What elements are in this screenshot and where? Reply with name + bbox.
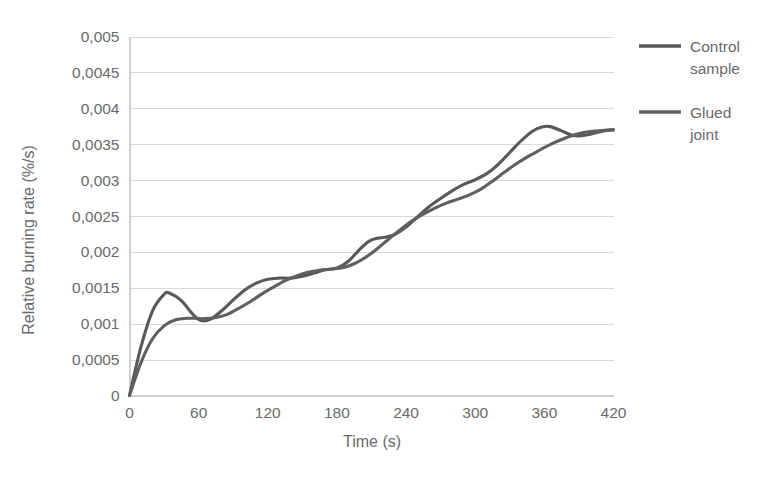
y-tick-label-8: 0,004 xyxy=(81,100,120,117)
x-axis-title: Time (s) xyxy=(343,433,401,450)
y-tick-label-0: 0 xyxy=(111,387,120,404)
y-tick-label-9: 0,0045 xyxy=(72,64,119,81)
x-tick-label-2: 120 xyxy=(255,404,281,421)
x-tick-label-1: 60 xyxy=(190,404,208,421)
y-tick-label-7: 0,0035 xyxy=(72,136,119,153)
y-tick-label-3: 0,0015 xyxy=(72,279,119,296)
legend-label-1-line2: joint xyxy=(689,126,719,143)
x-tick-label-0: 0 xyxy=(125,404,134,421)
y-tick-label-2: 0,001 xyxy=(81,315,120,332)
legend-label-0-line1: Control xyxy=(690,38,740,55)
y-tick-label-4: 0,002 xyxy=(81,243,120,260)
x-tick-label-7: 420 xyxy=(601,404,627,421)
y-tick-label-10: 0,005 xyxy=(81,28,120,45)
chart-container: 00,00050,0010,00150,0020,00250,0030,0035… xyxy=(0,0,778,479)
x-tick-label-6: 360 xyxy=(531,404,557,421)
x-tick-label-4: 240 xyxy=(393,404,419,421)
legend-label-1-line1: Glued xyxy=(690,104,731,121)
y-axis-title: Relative burning rate (%/s) xyxy=(20,145,37,334)
y-tick-label-5: 0,0025 xyxy=(72,208,119,225)
legend-label-0-line2: sample xyxy=(690,60,740,77)
y-tick-label-1: 0,0005 xyxy=(72,351,119,368)
x-tick-label-5: 300 xyxy=(462,404,488,421)
x-tick-label-3: 180 xyxy=(324,404,350,421)
line-chart: 00,00050,0010,00150,0020,00250,0030,0035… xyxy=(0,0,778,479)
y-tick-label-6: 0,003 xyxy=(81,172,120,189)
